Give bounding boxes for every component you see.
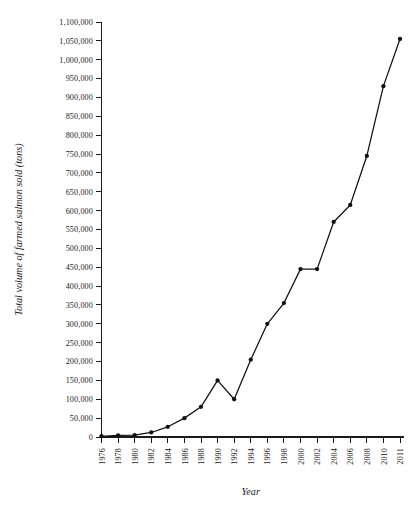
x-axis-tick-labels: 1976197819801982198419861988199019921994… xyxy=(98,448,406,465)
y-tick-label: 50,000 xyxy=(70,414,93,423)
x-tick-label: 1986 xyxy=(181,448,190,465)
x-tick-label: 1978 xyxy=(114,448,123,465)
y-tick-label: 1,100,000 xyxy=(59,18,93,27)
data-point xyxy=(315,267,319,271)
x-tick-label: 2002 xyxy=(313,448,322,465)
x-tick-label: 2000 xyxy=(297,448,306,465)
x-tick-label: 2010 xyxy=(380,448,389,465)
y-tick-label: 350,000 xyxy=(66,301,93,310)
x-tick-label: 1980 xyxy=(131,448,140,465)
x-tick-label: 2011 xyxy=(396,448,405,465)
x-tick-label: 2008 xyxy=(363,448,372,465)
y-tick-label: 100,000 xyxy=(66,395,93,404)
x-tick-label: 1984 xyxy=(164,448,173,465)
y-tick-label: 750,000 xyxy=(66,150,93,159)
data-point xyxy=(282,301,286,305)
y-axis-title: Total volume of farmed salmon sold (tons… xyxy=(13,143,25,316)
y-tick-label: 400,000 xyxy=(66,282,93,291)
data-point xyxy=(232,397,236,401)
y-tick-label: 500,000 xyxy=(66,244,93,253)
y-tick-label: 700,000 xyxy=(66,169,93,178)
y-tick-label: 550,000 xyxy=(66,225,93,234)
data-point xyxy=(182,416,186,420)
x-tick-label: 2006 xyxy=(346,448,355,465)
x-axis-ticks xyxy=(102,437,401,443)
y-tick-label: 650,000 xyxy=(66,188,93,197)
data-point xyxy=(133,433,137,437)
x-tick-label: 1990 xyxy=(214,448,223,465)
y-tick-label: 850,000 xyxy=(66,112,93,121)
x-tick-label: 1988 xyxy=(197,448,206,465)
y-tick-label: 1,050,000 xyxy=(59,37,93,46)
x-tick-label: 1992 xyxy=(230,448,239,465)
x-axis-title: Year xyxy=(242,486,260,497)
y-tick-label: 1,000,000 xyxy=(59,56,93,65)
data-point xyxy=(166,425,170,429)
y-tick-label: 0 xyxy=(89,433,93,442)
x-tick-label: 2004 xyxy=(330,448,339,465)
data-point xyxy=(99,434,103,438)
data-series-line xyxy=(102,39,401,436)
data-point xyxy=(199,405,203,409)
data-point xyxy=(249,358,253,362)
data-point xyxy=(332,220,336,224)
x-tick-label: 1976 xyxy=(98,448,107,465)
chart-canvas: 050,000100,000150,000200,000250,000300,0… xyxy=(0,0,414,508)
y-tick-label: 200,000 xyxy=(66,357,93,366)
x-tick-label: 1998 xyxy=(280,448,289,465)
data-point xyxy=(149,430,153,434)
data-point xyxy=(348,203,352,207)
data-point xyxy=(398,37,402,41)
y-tick-label: 800,000 xyxy=(66,131,93,140)
data-point xyxy=(298,267,302,271)
y-tick-label: 250,000 xyxy=(66,339,93,348)
y-tick-label: 450,000 xyxy=(66,263,93,272)
y-tick-label: 150,000 xyxy=(66,376,93,385)
data-point xyxy=(215,378,219,382)
y-tick-label: 950,000 xyxy=(66,74,93,83)
data-point xyxy=(116,433,120,437)
y-tick-label: 300,000 xyxy=(66,320,93,329)
salmon-volume-line-chart: 050,000100,000150,000200,000250,000300,0… xyxy=(0,0,414,508)
y-tick-label: 900,000 xyxy=(66,93,93,102)
data-point-markers xyxy=(99,37,402,439)
y-axis-ticks xyxy=(96,22,102,437)
x-tick-label: 1994 xyxy=(247,448,256,465)
y-tick-label: 600,000 xyxy=(66,207,93,216)
y-axis-tick-labels: 050,000100,000150,000200,000250,000300,0… xyxy=(59,18,93,442)
x-tick-label: 1996 xyxy=(263,448,272,465)
data-point xyxy=(381,84,385,88)
data-point xyxy=(365,154,369,158)
data-point xyxy=(265,322,269,326)
x-tick-label: 1982 xyxy=(147,448,156,465)
